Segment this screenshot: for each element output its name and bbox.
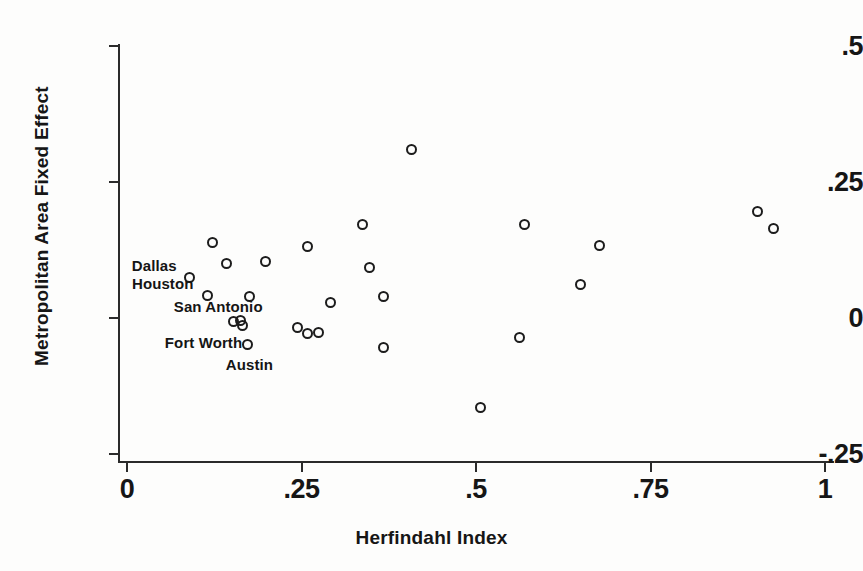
y-axis-title: Metropolitan Area Fixed Effect — [31, 16, 53, 436]
data-point-marker[interactable] — [514, 332, 525, 343]
data-point-marker[interactable] — [242, 339, 253, 350]
data-point-marker[interactable] — [475, 402, 486, 413]
scatter-plot-figure: .5.250-.25 0.25.5.751 DallasHoustonSan A… — [0, 0, 863, 571]
data-point-marker[interactable] — [768, 223, 779, 234]
data-point-marker[interactable] — [221, 258, 232, 269]
data-point-marker[interactable] — [594, 240, 605, 251]
data-point-marker[interactable] — [302, 328, 313, 339]
data-point-marker[interactable] — [302, 241, 313, 252]
data-point-marker[interactable] — [260, 256, 271, 267]
data-point-label: Dallas — [132, 257, 177, 274]
data-point-marker[interactable] — [237, 320, 248, 331]
data-point-marker[interactable] — [378, 291, 389, 302]
data-point-marker[interactable] — [357, 219, 368, 230]
data-point-label: Fort Worth — [165, 334, 242, 351]
data-point-marker[interactable] — [313, 327, 324, 338]
data-point-marker[interactable] — [378, 342, 389, 353]
data-point-marker[interactable] — [207, 237, 218, 248]
data-point-marker[interactable] — [519, 219, 530, 230]
data-point-label: San Antonio — [174, 298, 263, 315]
data-point-marker[interactable] — [406, 144, 417, 155]
plot-area: DallasHoustonSan AntonioAustinFort Worth — [0, 0, 863, 571]
data-point-label: Austin — [226, 356, 273, 373]
data-point-marker[interactable] — [575, 279, 586, 290]
x-axis-title: Herfindahl Index — [0, 527, 863, 549]
data-point-marker[interactable] — [364, 262, 375, 273]
data-point-label: Houston — [132, 275, 194, 292]
data-point-marker[interactable] — [325, 297, 336, 308]
data-point-marker[interactable] — [752, 206, 763, 217]
